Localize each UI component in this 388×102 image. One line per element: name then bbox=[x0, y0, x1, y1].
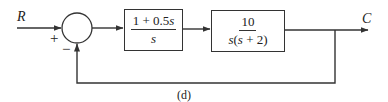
diagram-canvas bbox=[0, 0, 388, 102]
plant-numerator: 10 bbox=[239, 15, 256, 31]
controller-transfer-function: 1 + 0.5s s bbox=[131, 14, 177, 47]
plant-block: 10 s(s + 2) bbox=[211, 10, 285, 52]
input-label-r: R bbox=[17, 10, 26, 24]
plus-sign: + bbox=[50, 31, 58, 46]
controller-numerator-var: s bbox=[169, 13, 174, 28]
minus-sign: − bbox=[62, 42, 70, 57]
summing-junction bbox=[62, 13, 92, 43]
controller-denominator: s bbox=[151, 30, 156, 46]
output-label-c: C bbox=[362, 12, 371, 26]
feedback-path bbox=[77, 30, 335, 83]
controller-block: 1 + 0.5s s bbox=[124, 9, 183, 51]
plant-transfer-function: 10 s(s + 2) bbox=[228, 15, 267, 48]
figure-caption: (d) bbox=[177, 89, 191, 101]
controller-numerator-prefix: 1 + 0.5 bbox=[133, 13, 170, 28]
plant-denominator-rest: + 2) bbox=[243, 32, 268, 47]
